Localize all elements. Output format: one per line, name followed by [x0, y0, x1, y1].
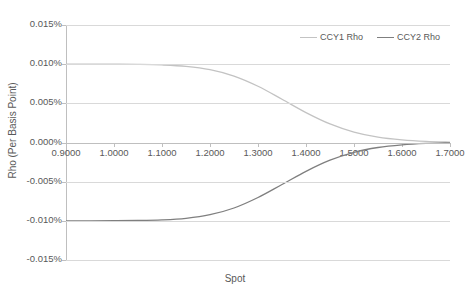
gridline: [66, 182, 450, 183]
rho-vs-spot-line-chart: 0.015%0.010%0.005%0.000%-0.005%-0.010%-0…: [0, 0, 470, 294]
gridline: [66, 260, 450, 261]
y-tick-label: -0.015%: [0, 253, 62, 264]
plot-area: [66, 25, 450, 260]
y-axis-title: Rho (Per Basis Point): [7, 56, 18, 206]
legend-entry-ccy2[interactable]: CCY2 Rho: [377, 32, 440, 42]
x-axis-title: Spot: [0, 273, 470, 284]
gridline: [66, 25, 450, 26]
legend-entry-ccy1[interactable]: CCY1 Rho: [300, 32, 363, 42]
chart-legend: CCY1 Rho CCY2 Rho: [300, 32, 440, 42]
gridline: [66, 143, 450, 144]
legend-label-ccy1: CCY1 Rho: [320, 32, 363, 42]
gridline: [66, 64, 450, 65]
legend-label-ccy2: CCY2 Rho: [397, 32, 440, 42]
gridline: [66, 103, 450, 104]
x-tick-mark: [450, 143, 451, 147]
y-tick-label: -0.010%: [0, 214, 62, 225]
y-tick-label: 0.015%: [0, 18, 62, 29]
legend-swatch-ccy2: [377, 37, 394, 38]
gridline: [66, 221, 450, 222]
legend-swatch-ccy1: [300, 37, 317, 38]
